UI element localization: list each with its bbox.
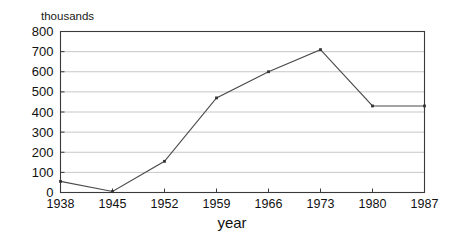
x-tick-label: 1980 [359, 197, 387, 211]
y-tick-label: 100 [32, 165, 54, 180]
data-point-marker [111, 190, 114, 193]
x-axis-title: year [217, 214, 246, 231]
x-tick-label: 1987 [411, 197, 439, 211]
data-point-marker [423, 105, 426, 108]
y-tick-label: 400 [32, 105, 54, 120]
data-point-marker [267, 70, 270, 73]
x-tick-label: 1966 [255, 197, 283, 211]
data-point-marker [371, 105, 374, 108]
line-chart: thousands 8007006005004003002001000 1938… [0, 0, 459, 241]
data-point-marker [319, 48, 322, 51]
x-tick-label: 1952 [151, 197, 179, 211]
y-tick-label: 500 [32, 84, 54, 99]
y-tick-label: 200 [32, 145, 54, 160]
y-tick-label: 700 [32, 44, 54, 59]
x-tick-label: 1945 [99, 197, 127, 211]
data-point-marker [59, 180, 62, 183]
y-tick-label: 300 [32, 125, 54, 140]
y-tick-label: 600 [32, 64, 54, 79]
y-tick-label: 800 [32, 24, 54, 39]
chart-svg: thousands 8007006005004003002001000 1938… [0, 0, 459, 241]
data-point-marker [215, 97, 218, 100]
x-tick-label: 1938 [47, 197, 75, 211]
x-tick-label: 1973 [307, 197, 335, 211]
x-tick-label: 1959 [203, 197, 231, 211]
y-axis-label: thousands [41, 10, 94, 22]
data-point-marker [163, 160, 166, 163]
